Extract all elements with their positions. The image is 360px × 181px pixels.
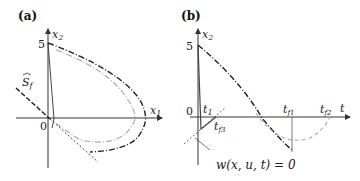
switching-surface [16, 88, 50, 119]
constraint-normal [195, 138, 210, 150]
t-axis-label: t [340, 102, 345, 115]
hat-accent [23, 73, 31, 75]
tf2-label: tf2 [320, 103, 332, 117]
x2-axis-label-b: x2 [202, 28, 213, 42]
tick-5: 5 [38, 38, 45, 51]
panel-a-label: (a) [18, 9, 37, 23]
panel-a: (a) x2 x1 5 0 Sf [16, 9, 162, 168]
tf1-label: tf1 [283, 103, 294, 117]
tick-0-b: 0 [186, 105, 193, 118]
panel-b: (b) x2 t 5 0 t1 tf3 tf1 tf2 w(x, u, t) =… [181, 9, 350, 172]
solid-trajectory [48, 43, 54, 128]
t1-label: t1 [203, 103, 213, 117]
light-trajectory [54, 50, 135, 142]
constraint-label: w(x, u, t) = 0 [216, 158, 296, 172]
switching-surface-extension [50, 119, 98, 162]
tick-5-b: 5 [186, 40, 193, 53]
x2-axis-label: x2 [52, 28, 63, 42]
figure-canvas: (a) x2 x1 5 0 Sf (b) x2 t 5 0 t1 tf3 tf1… [0, 0, 360, 181]
tick-0: 0 [40, 120, 47, 133]
tf3-label: tf3 [214, 120, 226, 134]
dark-trajectory [48, 43, 146, 152]
surface-label: Sf [22, 76, 35, 90]
x1-axis-label: x1 [150, 104, 161, 118]
panel-b-label: (b) [181, 9, 201, 23]
